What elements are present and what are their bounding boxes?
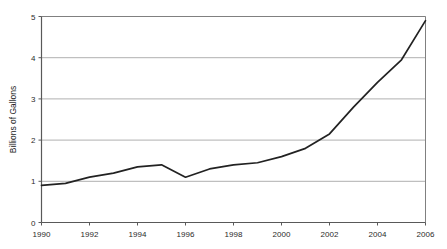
chart-canvas: 0123451990199219941996199820002002200420… (0, 0, 447, 249)
x-axis-tick-label: 1990 (33, 230, 51, 239)
x-axis-tick-label: 1992 (81, 230, 99, 239)
x-axis-tick-label: 1998 (225, 230, 243, 239)
y-axis-tick-label: 4 (31, 54, 36, 63)
y-axis-tick-label: 2 (31, 136, 36, 145)
x-axis-tick-label: 2006 (417, 230, 435, 239)
plot-background (42, 17, 426, 223)
y-axis-title: Billions of Gallons (8, 86, 18, 154)
y-axis-tick-label: 1 (31, 177, 36, 186)
x-axis-tick-label: 2002 (321, 230, 339, 239)
x-axis-tick-label: 2000 (273, 230, 291, 239)
x-axis-tick-label: 2004 (369, 230, 387, 239)
y-axis-tick-label: 0 (31, 219, 36, 228)
line-chart: 0123451990199219941996199820002002200420… (0, 0, 447, 249)
y-axis-tick-label: 3 (31, 95, 36, 104)
x-axis-tick-label: 1994 (129, 230, 147, 239)
x-axis-tick-label: 1996 (177, 230, 195, 239)
y-axis-tick-label: 5 (31, 13, 36, 22)
